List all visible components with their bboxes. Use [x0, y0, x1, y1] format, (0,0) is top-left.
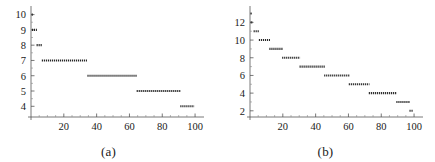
- y-tick-label: 10: [235, 35, 246, 46]
- x-tick-label: 100: [406, 121, 422, 132]
- panel-b: 2040608010024681012 (b): [217, 0, 434, 162]
- x-tick-label: 100: [187, 121, 203, 132]
- caption-b: (b): [217, 144, 434, 160]
- y-tick-label: 2: [240, 106, 245, 117]
- y-tick-label: 4: [240, 88, 246, 99]
- y-tick-label: 8: [240, 53, 245, 64]
- y-tick-label: 6: [240, 70, 245, 81]
- x-tick-label: 80: [157, 121, 168, 132]
- x-tick-label: 20: [278, 121, 289, 132]
- x-tick-label: 60: [124, 121, 135, 132]
- y-tick-label: 5: [21, 86, 26, 97]
- y-tick-label: 10: [16, 9, 27, 20]
- y-tick-label: 8: [21, 40, 26, 51]
- figure-container: 2040608010045678910 (a) 2040608010024681…: [0, 0, 435, 162]
- x-tick-label: 80: [376, 121, 387, 132]
- x-tick-label: 40: [91, 121, 102, 132]
- y-tick-label: 7: [21, 55, 26, 66]
- x-tick-label: 40: [310, 121, 321, 132]
- y-tick-label: 12: [235, 17, 246, 28]
- caption-a: (a): [0, 144, 217, 160]
- y-tick-label: 9: [21, 25, 26, 36]
- y-tick-label: 6: [21, 71, 26, 82]
- panel-a: 2040608010045678910 (a): [0, 0, 217, 162]
- x-tick-label: 20: [59, 121, 70, 132]
- chart-b: 2040608010024681012: [217, 0, 434, 140]
- chart-a: 2040608010045678910: [0, 0, 217, 140]
- y-tick-label: 4: [21, 101, 27, 112]
- x-tick-label: 60: [343, 121, 354, 132]
